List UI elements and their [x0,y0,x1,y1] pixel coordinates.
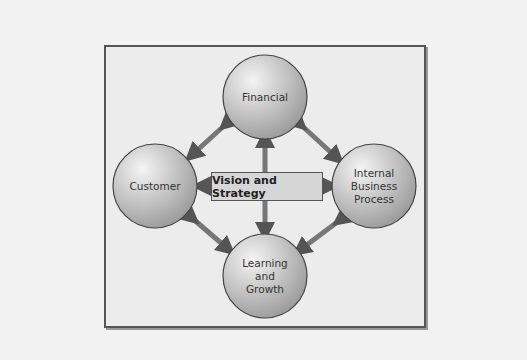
label-customer: Customer [115,180,195,193]
arrow-internal-learning [300,220,340,250]
center-box-vision-strategy: Vision and Strategy [211,172,323,201]
label-financial: Financial [225,91,305,104]
arrow-financial-customer [192,124,226,155]
arrow-financial-internal [300,124,337,158]
arrow-customer-learning [192,218,228,249]
label-internal: Internal Business Process [344,167,404,206]
label-learning: Learning and Growth [235,257,295,296]
center-label: Vision and Strategy [212,174,322,200]
